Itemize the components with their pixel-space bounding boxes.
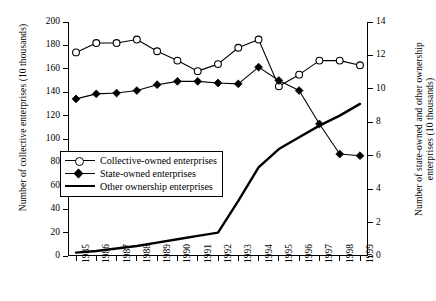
y-axis-left-tick-label: 160 xyxy=(20,63,60,74)
tick-mark xyxy=(157,256,158,261)
tick-mark xyxy=(319,256,320,261)
y-axis-left-tick-label: 20 xyxy=(20,227,60,238)
y-axis-left-tick-label: 140 xyxy=(20,86,60,97)
tick-mark xyxy=(299,256,300,261)
legend-item-other-ownership: Other ownership enterprises xyxy=(65,180,217,193)
series-filled-diamond xyxy=(72,63,364,159)
y-axis-left-tick-label: 120 xyxy=(20,110,60,121)
tick-mark xyxy=(278,256,279,261)
y-axis-right-tick-label: 10 xyxy=(376,83,416,94)
tick-mark xyxy=(368,88,373,89)
legend-label: State-owned enterprises xyxy=(100,167,196,180)
tick-mark xyxy=(96,256,97,261)
legend-item-collective: Collective-owned enterprises xyxy=(65,154,217,167)
y-axis-right-tick-label: 12 xyxy=(376,49,416,60)
y-axis-left-tick-label: 0 xyxy=(20,250,60,261)
tick-mark xyxy=(368,155,373,156)
tick-mark xyxy=(368,22,373,23)
legend-label: Other ownership enterprises xyxy=(100,180,213,193)
y-axis-right-tick-label: 2 xyxy=(376,217,416,228)
chart-legend: Collective-owned enterprises State-owned… xyxy=(60,151,223,197)
legend-marker-plain-line-icon xyxy=(65,180,95,193)
tick-mark xyxy=(116,256,117,261)
legend-marker-open-circle-icon xyxy=(65,154,95,167)
y-axis-left-tick-label: 60 xyxy=(20,180,60,191)
series-layer xyxy=(68,22,368,256)
plot-area: 020406080100120140160180200 02468101214 … xyxy=(68,22,368,256)
y-axis-right-tick-label: 6 xyxy=(376,150,416,161)
y-axis-left-tick-label: 180 xyxy=(20,39,60,50)
tick-mark xyxy=(360,256,361,261)
legend-label: Collective-owned enterprises xyxy=(100,154,217,167)
y-axis-left-tick-label: 80 xyxy=(20,156,60,167)
y-axis-right-title: Number of state-owned and other ownershi… xyxy=(414,34,436,224)
tick-mark xyxy=(258,256,259,261)
tick-mark xyxy=(339,256,340,261)
tick-mark xyxy=(136,256,137,261)
y-axis-left-tick-label: 40 xyxy=(20,203,60,214)
legend-marker-filled-diamond-icon xyxy=(65,167,95,180)
y-axis-left-tick-label: 200 xyxy=(20,16,60,27)
tick-mark xyxy=(368,55,373,56)
y-axis-right-tick-label: 14 xyxy=(376,16,416,27)
tick-mark xyxy=(218,256,219,261)
tick-mark xyxy=(197,256,198,261)
y-axis-right-tick-label: 8 xyxy=(376,116,416,127)
tick-mark xyxy=(76,256,77,261)
legend-item-state-owned: State-owned enterprises xyxy=(65,167,217,180)
tick-mark xyxy=(177,256,178,261)
tick-mark xyxy=(368,189,373,190)
y-axis-left-tick-label: 100 xyxy=(20,133,60,144)
tick-mark xyxy=(238,256,239,261)
y-axis-right-tick-label: 0 xyxy=(376,250,416,261)
y-axis-right-tick-label: 4 xyxy=(376,183,416,194)
tick-mark xyxy=(368,122,373,123)
